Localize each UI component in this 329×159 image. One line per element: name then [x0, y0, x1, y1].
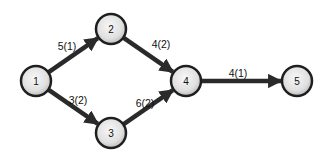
node-1: 1	[21, 66, 51, 96]
edge-label-1-2: 5(1)	[58, 40, 77, 52]
edge-label-4-5: 4(1)	[229, 67, 248, 79]
node-label-4: 4	[183, 76, 189, 87]
edge-label-1-3: 3(2)	[69, 94, 88, 106]
network-diagram: 5(1)3(2)4(2)6(2)4(1) 12345	[0, 0, 329, 159]
edges-layer	[48, 38, 281, 125]
edge-label-2-4: 4(2)	[152, 38, 171, 50]
node-label-2: 2	[108, 24, 114, 35]
node-5: 5	[282, 66, 312, 96]
node-label-3: 3	[108, 128, 114, 139]
edge-label-3-4: 6(2)	[136, 97, 155, 109]
node-label-5: 5	[294, 76, 300, 87]
node-4: 4	[171, 66, 201, 96]
node-3: 3	[96, 118, 126, 148]
node-label-1: 1	[33, 76, 39, 87]
node-2: 2	[96, 14, 126, 44]
